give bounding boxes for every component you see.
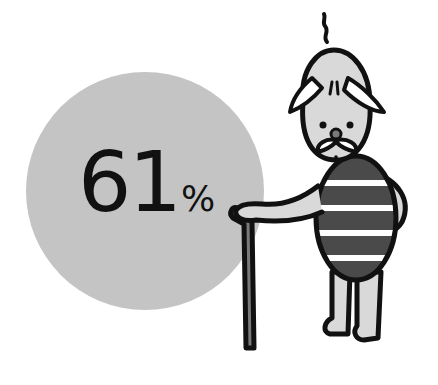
- old-man-with-cane-icon: [0, 0, 438, 385]
- head-icon: [290, 14, 384, 160]
- infographic: 61 %: [0, 0, 438, 385]
- cane-icon: [231, 208, 254, 348]
